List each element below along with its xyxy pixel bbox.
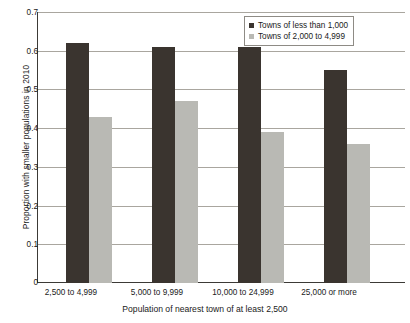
dark-square-swatch-icon <box>249 23 254 28</box>
y-tick-label-0.5: 0.5 <box>12 86 38 94</box>
bar-towns-less-than-1000-3 <box>324 70 347 283</box>
y-tick-label-0.1: 0.1 <box>12 241 38 249</box>
bar-towns-less-than-1000-2 <box>238 47 261 283</box>
bar-towns-2000-to-4999-3 <box>347 144 370 283</box>
x-tick-label-2: 10,000 to 24,999 <box>193 288 293 297</box>
legend-label-0: Towns of less than 1,000 <box>258 20 348 31</box>
y-tick-label-0.6: 0.6 <box>12 48 38 56</box>
bar-towns-less-than-1000-0 <box>66 43 89 283</box>
light-square-swatch-icon <box>249 34 254 39</box>
bar-towns-2000-to-4999-1 <box>175 101 198 283</box>
y-axis-title: Proportion with smaller populations in 2… <box>21 37 31 257</box>
bar-group-0 <box>66 12 112 283</box>
bar-towns-less-than-1000-1 <box>152 47 175 283</box>
bar-series-container <box>37 12 405 283</box>
bar-towns-2000-to-4999-0 <box>89 117 112 283</box>
bar-group-2 <box>238 12 284 283</box>
chart-legend: Towns of less than 1,000 Towns of 2,000 … <box>244 16 354 46</box>
x-tick-label-0: 2,500 to 4,999 <box>21 288 121 297</box>
y-tick-label-0.4: 0.4 <box>12 125 38 133</box>
legend-item-0: Towns of less than 1,000 <box>249 20 348 31</box>
bar-chart-figure: Proportion with smaller populations in 2… <box>0 0 410 323</box>
legend-label-1: Towns of 2,000 to 4,999 <box>258 31 345 42</box>
bar-group-3 <box>324 12 370 283</box>
y-tick-label-0.3: 0.3 <box>12 164 38 172</box>
y-tick-label-0: 0 <box>12 279 38 287</box>
bar-towns-2000-to-4999-2 <box>261 132 284 283</box>
legend-item-1: Towns of 2,000 to 4,999 <box>249 31 348 42</box>
x-axis-title: Population of nearest town of at least 2… <box>0 304 410 314</box>
y-tick-label-0.7: 0.7 <box>12 9 38 17</box>
bar-group-1 <box>152 12 198 283</box>
x-tick-label-3: 25,000 or more <box>279 288 379 297</box>
x-tick-label-1: 5,000 to 9,999 <box>107 288 207 297</box>
y-tick-label-0.2: 0.2 <box>12 203 38 211</box>
